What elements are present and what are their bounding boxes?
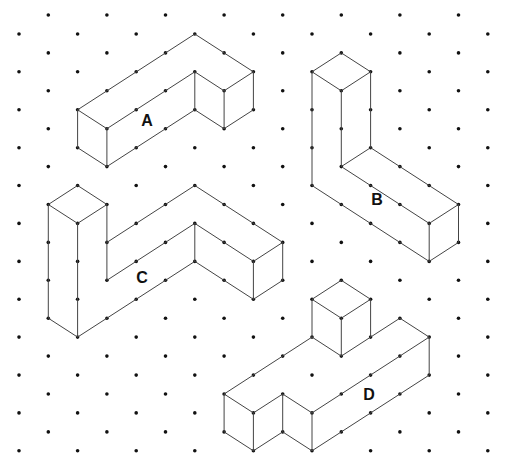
- edge: [224, 432, 253, 451]
- edge: [107, 186, 195, 243]
- grid-dot: [486, 298, 490, 302]
- grid-dot: [17, 32, 21, 36]
- edge: [341, 337, 370, 356]
- edge: [371, 318, 400, 337]
- edge: [312, 72, 341, 91]
- grid-dot: [76, 449, 80, 453]
- grid-dot: [457, 430, 461, 434]
- solid-c: [48, 186, 282, 338]
- edge: [195, 110, 224, 129]
- grid-dot: [222, 316, 226, 320]
- grid-dot: [164, 354, 168, 358]
- isometric-dot-grid-diagram: [0, 0, 515, 471]
- edge: [341, 53, 370, 72]
- grid-dot: [457, 354, 461, 358]
- edge: [78, 34, 195, 110]
- grid-dot: [17, 222, 21, 226]
- grid-dot: [47, 165, 51, 169]
- edge: [283, 394, 312, 413]
- grid-dot: [17, 260, 21, 264]
- edge: [224, 72, 253, 91]
- edge: [400, 318, 429, 337]
- grid-dot: [427, 146, 431, 150]
- grid-dot: [17, 146, 21, 150]
- grid-dot: [398, 279, 402, 283]
- grid-dot: [17, 373, 21, 377]
- grid-dot: [486, 146, 490, 150]
- grid-dot: [398, 13, 402, 17]
- grid-dot: [281, 51, 285, 55]
- grid-dot: [134, 32, 138, 36]
- grid-dot: [47, 13, 51, 17]
- grid-dot: [105, 51, 109, 55]
- grid-dot: [164, 13, 168, 17]
- grid-dot: [134, 449, 138, 453]
- grid-dot: [486, 222, 490, 226]
- edge: [312, 280, 341, 299]
- grid-dot: [193, 373, 197, 377]
- edge: [224, 394, 253, 413]
- grid-dot: [164, 165, 168, 169]
- edge: [107, 223, 195, 280]
- grid-dot: [310, 373, 314, 377]
- edge: [78, 110, 107, 129]
- grid-dot: [369, 260, 373, 264]
- grid-dot: [105, 392, 109, 396]
- grid-dot: [486, 108, 490, 112]
- grid-dot: [252, 335, 256, 339]
- grid-dot: [486, 449, 490, 453]
- grid-dot: [486, 32, 490, 36]
- edge: [253, 432, 282, 451]
- edge: [371, 148, 459, 205]
- grid-dot: [398, 89, 402, 93]
- grid-dot: [457, 316, 461, 320]
- grid-dot: [47, 354, 51, 358]
- grid-dot: [398, 430, 402, 434]
- grid-dot: [486, 373, 490, 377]
- edge: [195, 34, 254, 72]
- grid-dot: [17, 335, 21, 339]
- grid-dot: [457, 51, 461, 55]
- edge: [312, 53, 341, 72]
- grid-dot: [281, 316, 285, 320]
- grid-dot: [427, 411, 431, 415]
- grid-dot: [17, 449, 21, 453]
- solid-d: [224, 280, 429, 451]
- edge: [224, 110, 253, 129]
- solid-b: [312, 53, 459, 262]
- grid-dot: [134, 184, 138, 188]
- grid-dot: [310, 260, 314, 264]
- edge: [78, 205, 107, 224]
- edge: [341, 72, 370, 91]
- edge: [341, 299, 370, 318]
- grid-dot: [252, 32, 256, 36]
- edge: [312, 337, 341, 356]
- grid-dot: [164, 392, 168, 396]
- grid-dot: [193, 335, 197, 339]
- edge: [253, 242, 282, 261]
- grid-dot: [281, 203, 285, 207]
- edge: [341, 167, 429, 224]
- grid-dot: [281, 89, 285, 93]
- grid-dot: [164, 316, 168, 320]
- edge: [195, 261, 254, 299]
- edge: [253, 394, 282, 413]
- grid-dot: [427, 32, 431, 36]
- grid-dot: [457, 165, 461, 169]
- grid-dot: [281, 13, 285, 17]
- edge: [195, 186, 283, 243]
- grid-dot: [457, 392, 461, 396]
- grid-dot: [222, 165, 226, 169]
- grid-dot: [17, 108, 21, 112]
- grid-dot: [457, 13, 461, 17]
- edge: [78, 186, 107, 205]
- grid-dot: [47, 51, 51, 55]
- grid-dot: [17, 298, 21, 302]
- grid-dot: [486, 70, 490, 74]
- grid-dot: [486, 260, 490, 264]
- edge: [224, 337, 312, 394]
- edge: [312, 299, 341, 318]
- shape-c-label: C: [136, 270, 148, 286]
- grid-dot: [47, 89, 51, 93]
- grid-dot: [427, 108, 431, 112]
